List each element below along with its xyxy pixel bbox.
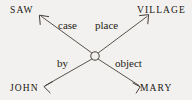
arrowhead-case-icon	[39, 15, 48, 24]
edge-label-case: case	[58, 20, 77, 31]
node-label-village: VILLAGE	[137, 6, 186, 16]
diagram-canvas: SAW VILLAGE JOHN MARY case place by obje…	[0, 0, 192, 100]
arrowhead-by-icon	[44, 82, 53, 93]
node-label-mary: MARY	[140, 84, 172, 94]
node-label-john: JOHN	[10, 84, 39, 94]
edge-label-object: object	[115, 58, 142, 69]
node-label-saw: SAW	[10, 6, 34, 16]
arrowhead-place-icon	[140, 15, 149, 24]
hub-node-icon	[91, 52, 99, 60]
edge-label-place: place	[95, 20, 118, 31]
edge-label-by: by	[57, 58, 68, 69]
